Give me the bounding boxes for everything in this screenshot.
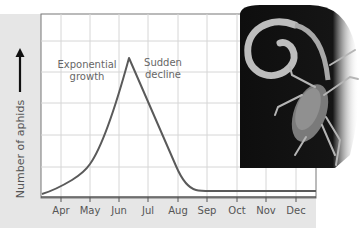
x-tick-label-dec: Dec <box>286 205 305 216</box>
x-tick-label-nov: Nov <box>256 205 276 216</box>
annotation-line: Exponential <box>57 59 116 71</box>
annotation-line: growth <box>57 71 116 83</box>
x-tick-label-jun: Jun <box>111 205 127 216</box>
annotation-line: Sudden <box>144 57 182 69</box>
y-axis-label-area: Number of aphids <box>0 14 41 198</box>
aphid-photo <box>240 5 363 168</box>
x-tick-label-oct: Oct <box>228 205 245 216</box>
x-tick-label-may: May <box>80 205 101 216</box>
annotation-line: decline <box>144 69 182 81</box>
annotation-exponential-growth: Exponential growth <box>57 59 116 83</box>
annotation-sudden-decline: Sudden decline <box>144 57 182 81</box>
x-tick-label-aug: Aug <box>168 205 188 216</box>
y-axis-label: Number of aphids <box>14 100 27 198</box>
x-tick-label-jul: Jul <box>142 205 154 216</box>
x-tick-label-sep: Sep <box>198 205 217 216</box>
x-tick-label-apr: Apr <box>52 205 69 216</box>
